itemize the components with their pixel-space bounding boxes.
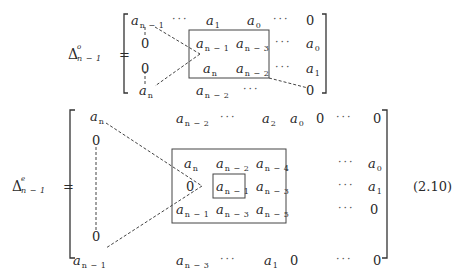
ellipsis: ··· xyxy=(336,254,353,265)
matrix2-right-bracket xyxy=(382,110,387,258)
delta-symbol: Δ o n − 1 xyxy=(68,47,108,65)
matrix-entry: an − 3 xyxy=(176,254,209,267)
matrix-entry: an xyxy=(139,84,153,97)
matrix-entry: 0 xyxy=(290,254,298,267)
matrix-entry: an − 3 xyxy=(216,203,249,216)
matrix-entry: a2 xyxy=(262,112,276,125)
matrix-entry: an − 3 xyxy=(256,180,289,193)
ellipsis: ··· xyxy=(338,180,355,191)
matrix-entry: a0 xyxy=(306,37,320,50)
matrix-entry: 0 xyxy=(373,112,381,125)
matrix-entry: an − 1 xyxy=(131,14,164,27)
delta-symbol: Δ e n − 1 xyxy=(12,179,52,197)
matrix-entry: a1 xyxy=(264,254,278,267)
matrix-entry: an − 2 xyxy=(216,157,249,170)
matrix-entry: an − 1 xyxy=(176,203,209,216)
matrix-entry: a1 xyxy=(306,62,320,75)
matrix-entry: 0 xyxy=(306,14,314,27)
matrix-entry: an xyxy=(203,62,217,75)
matrix-entry: an − 2 xyxy=(176,112,209,125)
ellipsis: ··· xyxy=(275,62,292,73)
matrix-entry: an − 3 xyxy=(236,37,269,50)
matrix-entry: 0 xyxy=(92,230,100,243)
ellipsis: ··· xyxy=(243,84,260,95)
ellipsis: ··· xyxy=(275,37,292,48)
equation-number: (2.10) xyxy=(413,180,452,193)
matrix-entry: an − 1 xyxy=(196,37,229,50)
matrix-entry: 0 xyxy=(373,254,381,267)
matrix-entry: a1 xyxy=(206,14,220,27)
matrix-entry: an − 1 xyxy=(73,254,106,267)
ellipsis: ··· xyxy=(336,112,353,123)
ellipsis: ··· xyxy=(172,14,189,25)
matrix-entry: an − 5 xyxy=(256,203,289,216)
matrix1-right-bracket xyxy=(322,14,326,93)
ellipsis: ··· xyxy=(338,157,355,168)
matrix2-lhs: Δ e n − 1 = xyxy=(12,178,74,197)
matrix-entry: 0 xyxy=(316,112,324,125)
matrix-entry: a0 xyxy=(368,157,382,170)
ellipsis: ··· xyxy=(273,14,290,25)
matrix-entry: 0 xyxy=(370,203,378,216)
matrix-entry: an − 1 xyxy=(216,180,249,193)
matrix-entry: 0 xyxy=(186,180,194,193)
matrix-entry: an xyxy=(184,157,198,170)
matrix-entry: 0 xyxy=(141,37,149,50)
ellipsis: ··· xyxy=(338,203,355,214)
matrix-entry: a0 xyxy=(290,112,304,125)
matrix-entry: an − 2 xyxy=(196,84,229,97)
matrix-entry: an xyxy=(90,110,104,123)
matrix-entry: 0 xyxy=(306,84,314,97)
matrix-entry: a1 xyxy=(368,180,382,193)
ellipsis: ··· xyxy=(220,254,237,265)
ellipsis: ··· xyxy=(220,112,237,123)
matrix-entry: a0 xyxy=(247,14,261,27)
matrix1-lhs: Δ o n − 1 = xyxy=(68,46,130,65)
matrix-entry: 0 xyxy=(92,134,100,147)
matrix-entry: an − 2 xyxy=(236,62,269,75)
matrix-entry: 0 xyxy=(141,62,149,75)
matrix-entry: an − 4 xyxy=(256,157,289,170)
